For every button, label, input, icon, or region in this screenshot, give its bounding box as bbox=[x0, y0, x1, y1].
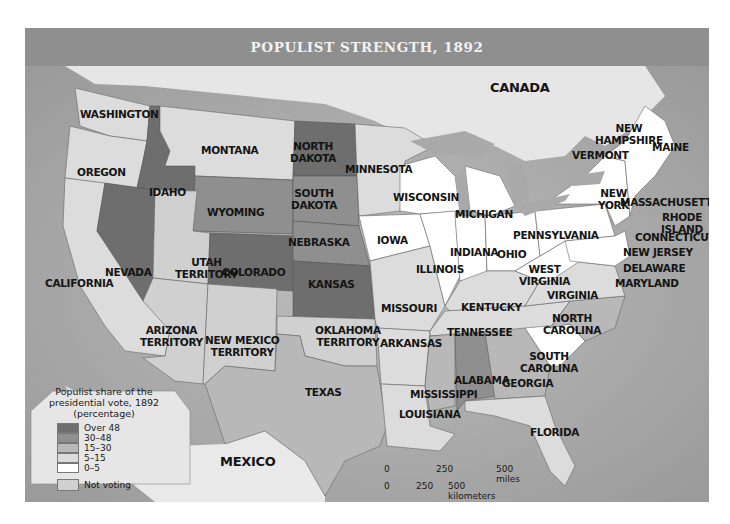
label-nevada: NEVADA bbox=[105, 266, 152, 278]
label-illinois: ILLINOIS bbox=[416, 263, 464, 275]
label-southdakota: SOUTHDAKOTA bbox=[291, 187, 337, 211]
legend-swatch bbox=[57, 453, 79, 463]
scale-km-500: 500 kilometers bbox=[448, 481, 514, 501]
label-mexico: MEXICO bbox=[220, 456, 275, 468]
label-newmexico: NEW MEXICOTERRITORY bbox=[205, 334, 279, 358]
legend-item-0-5: 0–5 bbox=[57, 463, 131, 473]
legend-title: Populist share of the presidential vote,… bbox=[30, 386, 178, 419]
label-arkansas: ARKANSAS bbox=[380, 337, 442, 349]
scale-km-0: 0 bbox=[384, 481, 390, 491]
label-connecticut: CONNECTICUT bbox=[635, 231, 709, 243]
label-washington: WASHINGTON bbox=[80, 108, 159, 120]
label-oregon: OREGON bbox=[77, 166, 126, 178]
legend-swatch bbox=[57, 423, 79, 433]
label-northcarolina: NORTHCAROLINA bbox=[543, 312, 601, 336]
legend-item-5-15: 5–15 bbox=[57, 453, 131, 463]
label-iowa: IOWA bbox=[377, 234, 408, 246]
label-louisiana: LOUISIANA bbox=[399, 408, 461, 420]
label-michigan: MICHIGAN bbox=[455, 208, 513, 220]
legend-item-over48: Over 48 bbox=[57, 423, 131, 433]
label-kansas: KANSAS bbox=[308, 278, 355, 290]
label-california: CALIFORNIA bbox=[45, 277, 113, 289]
legend-items: Over 48 30–48 15–30 5–15 0–5 Not voting bbox=[57, 423, 131, 491]
label-vermont: VERMONT bbox=[572, 149, 629, 161]
legend-swatch bbox=[57, 479, 79, 491]
label-ohio: OHIO bbox=[497, 248, 526, 260]
label-maryland: MARYLAND bbox=[615, 277, 679, 289]
label-kentucky: KENTUCKY bbox=[461, 301, 522, 313]
label-southcarolina: SOUTHCAROLINA bbox=[520, 350, 578, 374]
label-wyoming: WYOMING bbox=[207, 206, 264, 218]
label-northdakota: NORTHDAKOTA bbox=[290, 140, 336, 164]
label-pennsylvania: PENNSYLVANIA bbox=[513, 229, 599, 241]
label-oklahoma: OKLAHOMATERRITORY bbox=[315, 324, 381, 348]
label-tennessee: TENNESSEE bbox=[447, 326, 512, 338]
label-maine: MAINE bbox=[652, 141, 689, 153]
label-florida: FLORIDA bbox=[530, 426, 579, 438]
state-wyoming[interactable] bbox=[193, 176, 293, 234]
label-delaware: DELAWARE bbox=[623, 262, 685, 274]
legend-swatch bbox=[57, 463, 79, 473]
state-kansas[interactable] bbox=[293, 261, 375, 319]
title-bar: POPULIST STRENGTH, 1892 bbox=[25, 28, 709, 66]
label-mississippi: MISSISSIPPI bbox=[410, 388, 477, 400]
scale-km-250: 250 bbox=[416, 481, 433, 491]
label-virginia: VIRGINIA bbox=[547, 289, 598, 301]
label-georgia: GEORGIA bbox=[502, 377, 553, 389]
label-nebraska: NEBRASKA bbox=[288, 236, 350, 248]
label-texas: TEXAS bbox=[305, 386, 342, 398]
legend-item-30-48: 30–48 bbox=[57, 433, 131, 443]
label-arizona: ARIZONATERRITORY bbox=[140, 324, 203, 348]
legend-item-15-30: 15–30 bbox=[57, 443, 131, 453]
map-title: POPULIST STRENGTH, 1892 bbox=[251, 39, 484, 55]
label-westvirginia: WESTVIRGINIA bbox=[519, 263, 570, 287]
legend-swatch bbox=[57, 443, 79, 453]
label-canada: CANADA bbox=[490, 82, 550, 94]
scale-bar: 0 250 500 miles 0 250 500 kilometers bbox=[384, 464, 514, 494]
label-indiana: INDIANA bbox=[450, 246, 498, 258]
label-colorado: COLORADO bbox=[222, 266, 285, 278]
legend-item-not-voting: Not voting bbox=[57, 479, 131, 491]
legend-swatch bbox=[57, 433, 79, 443]
label-montana: MONTANA bbox=[201, 144, 258, 156]
label-wisconsin: WISCONSIN bbox=[393, 191, 459, 203]
label-massachusetts: MASSACHUSETTS bbox=[620, 196, 709, 208]
label-missouri: MISSOURI bbox=[381, 302, 437, 314]
scale-miles-250: 250 bbox=[436, 464, 453, 474]
legend: Populist share of the presidential vote,… bbox=[30, 383, 178, 499]
label-idaho: IDAHO bbox=[149, 186, 186, 198]
scale-miles-0: 0 bbox=[384, 464, 390, 474]
label-newjersey: NEW JERSEY bbox=[623, 246, 693, 258]
label-minnesota: MINNESOTA bbox=[345, 163, 412, 175]
